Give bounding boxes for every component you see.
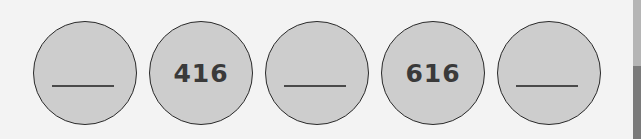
- page-edge-tab-light: [633, 0, 641, 66]
- answer-blank-line[interactable]: [516, 85, 578, 87]
- answer-blank-line[interactable]: [284, 85, 346, 87]
- sequence-circle-2: 416: [149, 21, 253, 125]
- sequence-circle-5-blank[interactable]: [497, 21, 601, 125]
- sequence-circle-1-blank[interactable]: [33, 21, 137, 125]
- page-edge-tab-dark: [633, 66, 641, 139]
- sequence-number: 616: [405, 59, 460, 88]
- sequence-circle-3-blank[interactable]: [265, 21, 369, 125]
- answer-blank-line[interactable]: [52, 85, 114, 87]
- sequence-number: 416: [173, 59, 228, 88]
- sequence-circle-4: 616: [381, 21, 485, 125]
